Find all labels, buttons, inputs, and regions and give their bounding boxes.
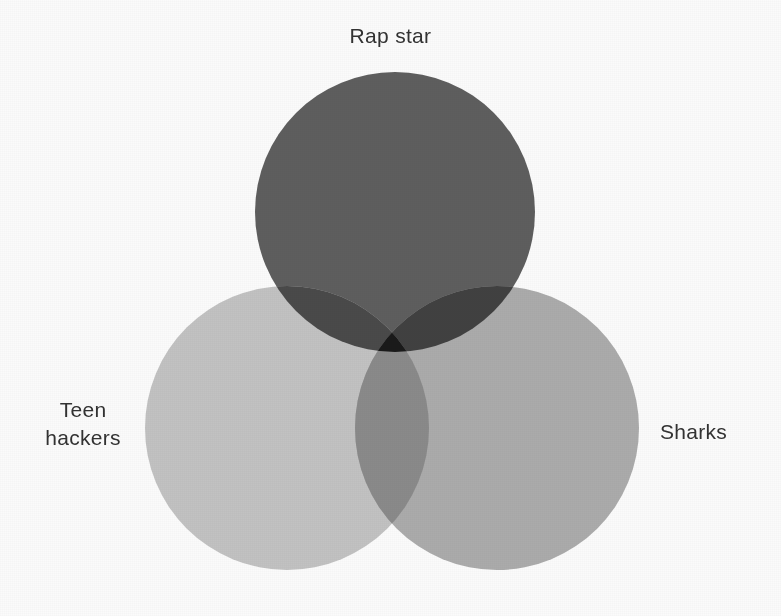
- venn-label-rap-star: Rap star: [0, 22, 781, 50]
- venn-diagram: Rap star Teen hackers Sharks: [0, 0, 781, 616]
- venn-circles-group: [0, 0, 781, 616]
- venn-label-sharks: Sharks: [660, 418, 780, 446]
- venn-label-teen-hackers: Teen hackers: [8, 396, 158, 453]
